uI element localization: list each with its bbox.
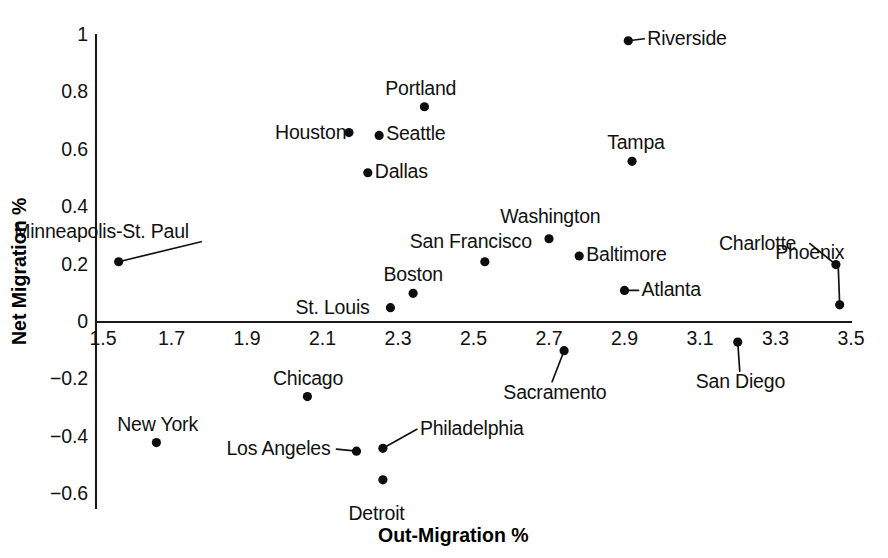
x-tick-label: 1.9 bbox=[217, 327, 277, 350]
data-point bbox=[620, 286, 629, 295]
x-tick-label: 2.3 bbox=[368, 327, 428, 350]
y-tick-label: −0.2 bbox=[20, 367, 88, 390]
x-tick-label: 1.7 bbox=[142, 327, 202, 350]
data-point bbox=[575, 251, 584, 260]
data-point bbox=[409, 289, 418, 298]
x-tick-label: 2.1 bbox=[293, 327, 353, 350]
y-tick-label: −0.6 bbox=[20, 482, 88, 505]
data-point bbox=[835, 300, 844, 309]
point-label: Houston bbox=[275, 121, 346, 144]
y-tick-label: −0.4 bbox=[20, 425, 88, 448]
point-label: Washington bbox=[500, 205, 600, 228]
point-label: Chicago bbox=[273, 367, 343, 390]
point-label: Dallas bbox=[375, 160, 428, 183]
label-leader-line bbox=[383, 429, 417, 448]
point-label: San Francisco bbox=[410, 230, 532, 253]
point-label: New York bbox=[117, 413, 198, 436]
data-point bbox=[544, 234, 553, 243]
data-point bbox=[114, 257, 123, 266]
data-point bbox=[152, 438, 161, 447]
point-label: Portland bbox=[385, 77, 456, 100]
point-label: San Diego bbox=[696, 370, 785, 393]
x-tick-label: 1.5 bbox=[73, 327, 133, 350]
point-label: Tampa bbox=[607, 131, 665, 154]
data-point bbox=[624, 36, 633, 45]
x-axis-title: Out-Migration % bbox=[378, 524, 529, 547]
point-label: Phoenix bbox=[775, 241, 844, 264]
scatter-plot-figure: 10.80.60.40.20−0.2−0.4−0.6 1.51.71.92.12… bbox=[0, 0, 888, 558]
point-label: Baltimore bbox=[586, 243, 667, 266]
point-label: Sacramento bbox=[503, 381, 606, 404]
x-tick-label: 3.5 bbox=[821, 327, 881, 350]
x-tick-label: 3.3 bbox=[746, 327, 806, 350]
data-point bbox=[480, 257, 489, 266]
point-label: Boston bbox=[383, 263, 443, 286]
label-leader-line bbox=[552, 351, 564, 382]
point-label: Riverside bbox=[647, 27, 726, 50]
point-label: Seattle bbox=[386, 122, 445, 145]
label-leader-line bbox=[119, 242, 201, 262]
point-label: Atlanta bbox=[642, 278, 701, 301]
point-label: Los Angeles bbox=[226, 437, 330, 460]
point-label: St. Louis bbox=[296, 296, 370, 319]
data-point bbox=[378, 444, 387, 453]
data-point bbox=[375, 131, 384, 140]
point-label: Philadelphia bbox=[420, 417, 524, 440]
y-tick-label: 1 bbox=[20, 23, 88, 46]
y-tick-label: 0.8 bbox=[20, 80, 88, 103]
data-point bbox=[733, 337, 742, 346]
data-point bbox=[363, 168, 372, 177]
y-axis-title: Net Migration % bbox=[8, 198, 31, 345]
point-label: Minneapolis-St. Paul bbox=[14, 220, 189, 243]
data-point bbox=[627, 157, 636, 166]
x-tick-label: 3.1 bbox=[670, 327, 730, 350]
data-point bbox=[378, 475, 387, 484]
data-point bbox=[386, 303, 395, 312]
x-tick-label: 2.9 bbox=[595, 327, 655, 350]
x-tick-label: 2.7 bbox=[519, 327, 579, 350]
data-point bbox=[352, 447, 361, 456]
point-label: Detroit bbox=[348, 502, 404, 525]
data-point bbox=[303, 392, 312, 401]
x-tick-label: 2.5 bbox=[444, 327, 504, 350]
data-point bbox=[420, 102, 429, 111]
y-tick-label: 0.6 bbox=[20, 138, 88, 161]
label-leader-line bbox=[838, 263, 840, 305]
